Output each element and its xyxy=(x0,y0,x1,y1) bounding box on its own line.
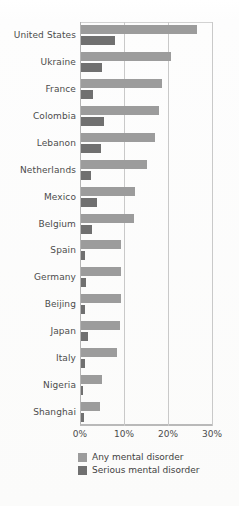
bar-serious-mental-disorder xyxy=(81,117,104,126)
y-axis-label-united-states: United States xyxy=(0,30,76,40)
legend-swatch-serious-icon xyxy=(78,466,87,475)
bar-any-mental-disorder xyxy=(81,187,135,196)
bar-any-mental-disorder xyxy=(81,267,121,276)
bar-group xyxy=(81,267,212,290)
y-axis-label-spain: Spain xyxy=(0,245,76,255)
bar-serious-mental-disorder xyxy=(81,90,93,99)
bar-serious-mental-disorder xyxy=(81,225,92,234)
y-axis-label-france: France xyxy=(0,84,76,94)
y-axis-label-belgium: Belgium xyxy=(0,219,76,229)
bar-serious-mental-disorder xyxy=(81,332,88,341)
bar-any-mental-disorder xyxy=(81,240,121,249)
bar-group xyxy=(81,25,212,48)
bar-group xyxy=(81,52,212,75)
y-axis-category-labels: United StatesUkraineFranceColombiaLebano… xyxy=(0,22,76,426)
y-axis-label-netherlands: Netherlands xyxy=(0,165,76,175)
legend-item-serious: Serious mental disorder xyxy=(0,465,239,475)
bar-any-mental-disorder xyxy=(81,106,159,115)
legend-label-any: Any mental disorder xyxy=(92,452,183,462)
x-tick-0: 0% xyxy=(73,429,87,439)
bar-any-mental-disorder xyxy=(81,294,121,303)
legend-swatch-any-icon xyxy=(78,453,87,462)
bar-serious-mental-disorder xyxy=(81,251,85,260)
y-axis-label-germany: Germany xyxy=(0,272,76,282)
bar-serious-mental-disorder xyxy=(81,413,84,422)
y-axis-label-colombia: Colombia xyxy=(0,111,76,121)
y-axis-label-shanghai: Shanghai xyxy=(0,407,76,417)
bar-any-mental-disorder xyxy=(81,375,102,384)
y-axis-label-nigeria: Nigeria xyxy=(0,380,76,390)
bar-group xyxy=(81,321,212,344)
y-axis-label-ukraine: Ukraine xyxy=(0,57,76,67)
bar-any-mental-disorder xyxy=(81,402,100,411)
legend-item-any: Any mental disorder xyxy=(0,452,239,462)
bar-group xyxy=(81,79,212,102)
y-axis-label-mexico: Mexico xyxy=(0,192,76,202)
bar-group xyxy=(81,402,212,425)
x-tick-30: 30% xyxy=(202,429,222,439)
y-axis-label-italy: Italy xyxy=(0,353,76,363)
bar-any-mental-disorder xyxy=(81,133,155,142)
bar-serious-mental-disorder xyxy=(81,359,85,368)
bar-serious-mental-disorder xyxy=(81,36,115,45)
y-axis-label-japan: Japan xyxy=(0,326,76,336)
bar-serious-mental-disorder xyxy=(81,386,83,395)
bar-serious-mental-disorder xyxy=(81,171,91,180)
chart-legend: Any mental disorder Serious mental disor… xyxy=(0,452,239,478)
x-axis-tick-labels: 0%10%20%30% xyxy=(0,429,239,443)
bar-serious-mental-disorder xyxy=(81,198,97,207)
bar-group xyxy=(81,214,212,237)
bar-group xyxy=(81,160,212,183)
y-axis-label-lebanon: Lebanon xyxy=(0,138,76,148)
chart-container: United StatesUkraineFranceColombiaLebano… xyxy=(0,0,239,506)
x-tick-20: 20% xyxy=(158,429,178,439)
bar-group xyxy=(81,294,212,317)
bar-any-mental-disorder xyxy=(81,160,147,169)
bar-any-mental-disorder xyxy=(81,214,134,223)
bar-group xyxy=(81,375,212,398)
bar-any-mental-disorder xyxy=(81,79,162,88)
bar-group xyxy=(81,106,212,129)
bar-any-mental-disorder xyxy=(81,348,117,357)
bar-rows xyxy=(80,22,212,426)
bar-group xyxy=(81,348,212,371)
bar-group xyxy=(81,187,212,210)
bar-serious-mental-disorder xyxy=(81,63,102,72)
gridline-30 xyxy=(212,22,213,426)
x-tick-10: 10% xyxy=(114,429,134,439)
y-axis-label-beijing: Beijing xyxy=(0,299,76,309)
bar-any-mental-disorder xyxy=(81,25,197,34)
plot-area xyxy=(80,22,212,426)
bar-serious-mental-disorder xyxy=(81,278,86,287)
bar-serious-mental-disorder xyxy=(81,305,85,314)
bar-group xyxy=(81,133,212,156)
legend-label-serious: Serious mental disorder xyxy=(92,465,200,475)
bar-any-mental-disorder xyxy=(81,52,171,61)
bar-serious-mental-disorder xyxy=(81,144,101,153)
bar-any-mental-disorder xyxy=(81,321,120,330)
bar-group xyxy=(81,240,212,263)
